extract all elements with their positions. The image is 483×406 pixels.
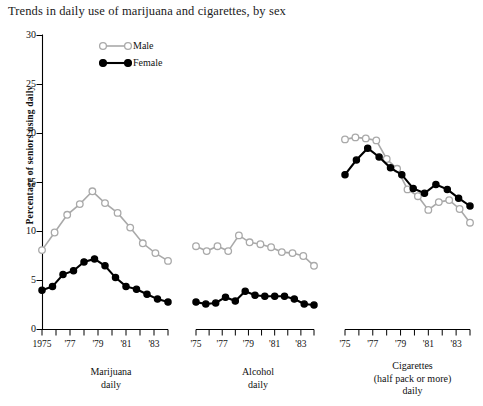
data-point-female	[433, 181, 439, 187]
data-point-male	[114, 210, 121, 217]
data-point-female	[272, 293, 278, 299]
data-point-male	[203, 248, 210, 255]
data-point-female	[376, 154, 382, 160]
data-point-female	[467, 203, 473, 209]
x-tick-label: '83	[436, 339, 476, 349]
data-point-female	[252, 292, 258, 298]
data-point-male	[89, 188, 96, 195]
data-point-female	[291, 296, 297, 302]
data-point-male	[425, 207, 432, 214]
data-point-female	[301, 301, 307, 307]
data-point-female	[456, 195, 462, 201]
data-point-male	[39, 247, 46, 254]
data-point-male	[300, 253, 307, 260]
legend-sample-marker	[125, 43, 132, 50]
data-point-female	[421, 190, 427, 196]
data-point-male	[289, 250, 296, 257]
data-point-male	[415, 193, 422, 200]
series-line-male	[196, 235, 314, 265]
data-point-male	[140, 240, 147, 247]
data-point-female	[262, 293, 268, 299]
data-point-male	[64, 212, 71, 219]
data-point-male	[467, 219, 474, 226]
data-point-male	[456, 206, 463, 213]
data-point-male	[279, 249, 286, 256]
data-point-male	[311, 263, 318, 270]
data-point-male	[102, 200, 109, 207]
data-point-male	[352, 134, 359, 141]
data-point-female	[165, 299, 171, 305]
data-point-male	[436, 199, 443, 206]
data-point-male	[193, 243, 200, 250]
data-point-female	[133, 286, 139, 292]
legend-sample-marker	[100, 60, 107, 67]
data-point-female	[70, 268, 76, 274]
data-point-female	[410, 185, 416, 191]
data-point-male	[363, 135, 370, 142]
x-tick-label: '83	[134, 339, 174, 349]
data-point-female	[444, 186, 450, 192]
data-point-female	[232, 298, 238, 304]
x-tick-label: '83	[281, 339, 321, 349]
data-point-male	[342, 136, 349, 143]
data-point-male	[246, 239, 253, 246]
data-point-female	[144, 291, 150, 297]
data-point-male	[373, 137, 380, 144]
data-point-male	[236, 232, 243, 239]
data-point-female	[81, 259, 87, 265]
chart-figure: Trends in daily use of marijuana and cig…	[0, 0, 483, 406]
data-point-female	[123, 283, 129, 289]
legend-sample-marker	[125, 60, 132, 67]
data-point-male	[152, 250, 159, 257]
data-point-male	[446, 197, 453, 204]
data-point-female	[311, 302, 317, 308]
data-point-female	[102, 263, 108, 269]
data-point-female	[193, 299, 199, 305]
data-point-male	[51, 229, 58, 236]
data-point-female	[387, 165, 393, 171]
data-point-male	[127, 224, 134, 231]
data-point-female	[281, 293, 287, 299]
data-point-female	[49, 283, 55, 289]
data-point-female	[154, 296, 160, 302]
data-point-female	[242, 288, 248, 294]
data-point-female	[213, 300, 219, 306]
data-point-female	[353, 157, 359, 163]
data-point-female	[399, 172, 405, 178]
data-point-male	[225, 248, 232, 255]
legend-sample-marker	[100, 43, 107, 50]
data-point-male	[214, 243, 221, 250]
data-point-female	[222, 294, 228, 300]
data-point-female	[342, 172, 348, 178]
data-point-male	[268, 244, 275, 251]
data-point-female	[365, 145, 371, 151]
data-point-female	[60, 272, 66, 278]
data-point-female	[39, 287, 45, 293]
data-point-female	[203, 301, 209, 307]
data-point-male	[165, 258, 172, 265]
data-point-male	[77, 201, 84, 208]
data-point-female	[112, 275, 118, 281]
data-point-male	[257, 241, 264, 248]
data-point-female	[91, 256, 97, 262]
